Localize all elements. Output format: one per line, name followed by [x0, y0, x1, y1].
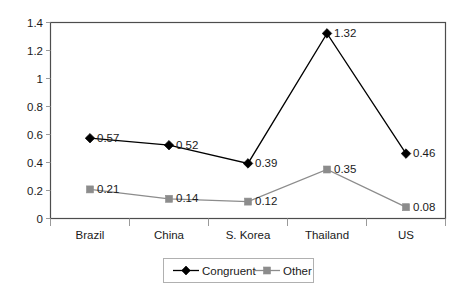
- y-tick-label: 1.2: [27, 45, 43, 57]
- line-chart: 1.4 1.2 1 0.8 0.6 0.4 0.2 0 Brazil China…: [0, 0, 465, 287]
- data-label-other-s-korea: 0.12: [255, 195, 277, 207]
- y-axis-labels: 1.4 1.2 1 0.8 0.6 0.4 0.2 0: [27, 17, 44, 225]
- x-tick-label-brazil: Brazil: [76, 229, 105, 241]
- x-tick-label-s-korea: S. Korea: [226, 229, 271, 241]
- series-markers-congruent: [85, 29, 411, 169]
- data-label-congruent-thailand: 1.32: [334, 27, 356, 39]
- y-tick-label: 1: [37, 73, 43, 85]
- chart-legend[interactable]: Congruent Other: [164, 259, 314, 283]
- data-label-congruent-s-korea: 0.39: [255, 157, 277, 169]
- data-label-other-china: 0.14: [176, 192, 199, 204]
- chart-container: 1.4 1.2 1 0.8 0.6 0.4 0.2 0 Brazil China…: [0, 0, 465, 287]
- y-tick-label: 0.4: [27, 157, 44, 169]
- series-line-congruent: [90, 33, 406, 163]
- data-labels-congruent: 0.57 0.52 0.39 1.32 0.46: [97, 27, 435, 169]
- data-label-other-thailand: 0.35: [334, 163, 356, 175]
- x-axis-ticks: [51, 219, 446, 227]
- series-markers-other: [87, 166, 410, 211]
- square-marker-icon: [264, 267, 271, 274]
- data-labels-other: 0.21 0.14 0.12 0.35 0.08: [97, 163, 435, 213]
- y-axis-ticks: [46, 23, 51, 219]
- x-axis-labels: Brazil China S. Korea Thailand US: [76, 229, 415, 241]
- data-label-other-us: 0.08: [413, 201, 435, 213]
- legend-label-congruent: Congruent: [202, 265, 257, 277]
- y-tick-label: 0.8: [27, 101, 43, 113]
- legend-label-other: Other: [283, 265, 312, 277]
- x-tick-label-china: China: [154, 229, 185, 241]
- data-label-other-brazil: 0.21: [97, 183, 119, 195]
- y-tick-label: 0.6: [27, 129, 43, 141]
- y-tick-label: 1.4: [27, 17, 44, 29]
- y-tick-label: 0: [37, 213, 43, 225]
- data-label-congruent-china: 0.52: [176, 139, 198, 151]
- y-tick-label: 0.2: [27, 185, 43, 197]
- x-tick-label-thailand: Thailand: [305, 229, 349, 241]
- data-label-congruent-brazil: 0.57: [97, 132, 119, 144]
- x-tick-label-us: US: [398, 229, 414, 241]
- data-label-congruent-us: 0.46: [413, 147, 435, 159]
- legend-item-congruent[interactable]: Congruent: [173, 265, 257, 277]
